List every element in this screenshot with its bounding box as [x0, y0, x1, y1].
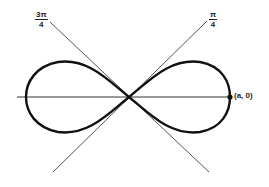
- label-denominator: 4: [209, 20, 217, 29]
- label-denominator: 4: [35, 20, 48, 29]
- label-numerator: π: [209, 10, 217, 20]
- label-three-pi-over-4: 3π 4: [35, 10, 48, 29]
- label-numerator: 3π: [35, 10, 48, 20]
- point-a-0: [227, 94, 232, 99]
- point-label: (a, 0): [234, 91, 253, 100]
- label-pi-over-4: π 4: [209, 10, 217, 29]
